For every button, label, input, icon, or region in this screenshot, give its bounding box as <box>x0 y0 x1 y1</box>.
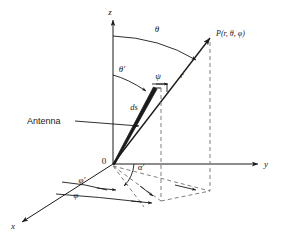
theta-prime-angle-group: θ′ <box>113 64 146 91</box>
theta-prime-arc <box>113 75 146 91</box>
x-axis-label: x <box>10 221 15 231</box>
theta-label: θ <box>155 24 160 34</box>
ground-closure-line <box>161 191 210 201</box>
phi-arc-arrow <box>131 201 152 203</box>
phi-prime-label: φ′ <box>79 175 87 185</box>
theta-prime-label: θ′ <box>119 64 126 74</box>
x-axis-line <box>22 164 113 222</box>
phi-projection-arrow <box>175 185 196 190</box>
ds-label: ds <box>130 102 138 112</box>
radius-vector-group: r P(r, θ, φ) <box>113 29 245 164</box>
origin-label: 0 <box>102 156 107 166</box>
diagram-canvas: z y x 0 r P(r, θ, φ) ds Antenna <box>0 0 287 238</box>
z-axis-label: z <box>107 7 112 17</box>
ground-closure-group <box>161 191 210 201</box>
phi-prime-angle-group: φ′ <box>62 175 116 190</box>
y-axis-label: y <box>263 159 268 169</box>
antenna-leader-line <box>75 121 139 126</box>
phi-label: φ <box>74 190 79 200</box>
phi-angle-group: φ <box>56 190 152 203</box>
psi-label: ψ <box>155 71 161 81</box>
theta-angle-group: θ <box>113 24 196 60</box>
theta-arc <box>113 36 196 60</box>
point-p-label: P(r, θ, φ) <box>215 29 245 38</box>
antenna-spherical-coordinate-figure: z y x 0 r P(r, θ, φ) ds Antenna <box>0 0 287 238</box>
ground-projection-arrows-group <box>140 185 196 196</box>
antenna-callout-group: Antenna <box>27 116 139 126</box>
phi-prime-projection-arrow <box>140 186 153 196</box>
phi-arc <box>56 194 142 202</box>
alpha-prime-label: α′ <box>138 162 146 172</box>
antenna-label: Antenna <box>27 116 61 126</box>
